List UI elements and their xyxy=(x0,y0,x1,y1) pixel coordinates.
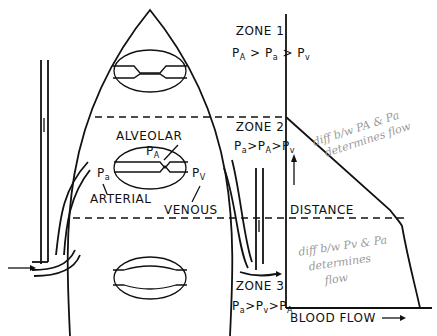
arterial-manometer xyxy=(8,60,90,276)
alveolar-pressure-label: PA xyxy=(146,144,160,160)
venous-pointer xyxy=(192,186,200,202)
zone2-label: ZONE 2 xyxy=(236,120,285,134)
alveolar-label: ALVEOLAR xyxy=(116,129,182,143)
blood-flow-label: BLOOD FLOW xyxy=(290,311,376,325)
lung-zones-diagram: ZONE 1 PA > Pa > Pv ZONE 2 Pa>PA>Pv ZONE… xyxy=(0,0,437,336)
zone2-relation: Pa>PA>Pv xyxy=(234,139,295,155)
arterial-label: ARTERIAL xyxy=(90,192,151,206)
distance-label: DISTANCE xyxy=(290,203,354,217)
svg-text:flow: flow xyxy=(323,271,350,287)
handwritten-note-zone2: diff b/w PA & Pa determines flow xyxy=(311,106,413,162)
zone3-relation: Pa>Pv>PA xyxy=(232,299,293,315)
lung-outline xyxy=(68,10,233,336)
venous-label: VENOUS xyxy=(164,203,218,217)
zone3-label: ZONE 3 xyxy=(236,279,285,293)
alveolar-pointer xyxy=(164,145,178,160)
zone1-relation: PA > Pa > Pv xyxy=(232,46,310,62)
alveolus-zone3 xyxy=(113,257,187,299)
handwritten-note-zone3: diff b/w Pv & Pa determines flow xyxy=(298,233,393,290)
venous-pressure-label: PV xyxy=(192,166,206,182)
zone1-label: ZONE 1 xyxy=(236,24,285,38)
arterial-pressure-label: Pa xyxy=(97,166,110,182)
alveolus-zone1 xyxy=(113,50,187,92)
